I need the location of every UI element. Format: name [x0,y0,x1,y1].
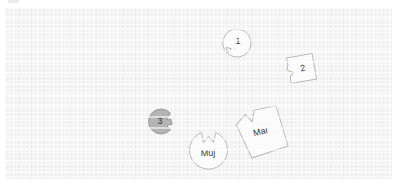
canvas-app: 1 2 3 Mar Mu [0,0,399,188]
map-canvas[interactable]: 1 2 3 Mar Mu [5,8,392,179]
shape-2-body [285,52,318,84]
shape-node-3[interactable]: 3 [148,108,175,135]
shape-node-2[interactable]: 2 [283,50,320,87]
shape-node-1[interactable]: 1 [222,28,252,58]
shape-node-muj[interactable]: Muj [188,130,229,171]
shape-mar-body [234,104,289,160]
shape-muj-body [190,133,228,170]
shape-node-mar[interactable]: Mar [231,102,293,164]
shape-1-body [223,29,251,57]
top-left-artifact-mark [8,0,19,3]
shape-3-body [149,109,173,134]
